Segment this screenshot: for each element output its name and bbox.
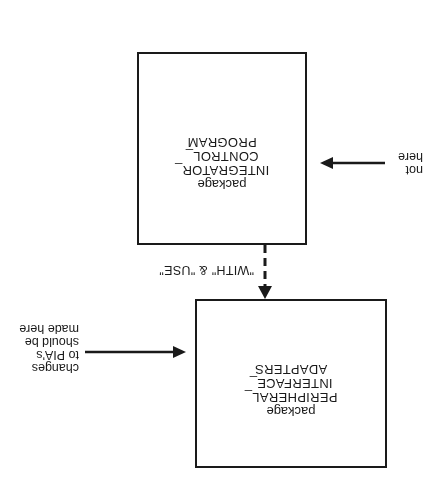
connector-layer — [0, 0, 443, 502]
with-use-label: "WITH" & "USE" — [159, 263, 254, 277]
changes-note-line-4: made here — [19, 322, 79, 335]
changes-note-line-3: should be — [19, 335, 79, 348]
not-here-line-2: here — [398, 150, 423, 163]
diagram-canvas: package PERIPHERAL_ INTERFACE_ ADAPTERS … — [0, 0, 443, 502]
changes-note: changes to PIA's should be made here — [19, 322, 79, 374]
changes-arrow — [85, 346, 186, 358]
not-here-arrow — [320, 157, 385, 169]
changes-note-line-1: changes — [19, 361, 79, 374]
changes-note-line-2: to PIA's — [19, 348, 79, 361]
not-here-note: not here — [398, 150, 423, 176]
not-here-line-1: not — [398, 163, 423, 176]
with-use-dashed-arrow — [258, 245, 272, 299]
